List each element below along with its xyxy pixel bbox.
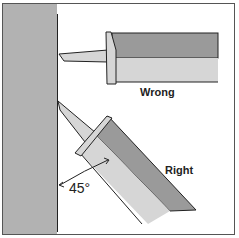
right-caulk-gun [58, 101, 196, 224]
wrong-barrel-bottom [112, 58, 218, 82]
wrong-caulk-gun [59, 32, 218, 84]
wall [3, 4, 57, 234]
label-wrong: Wrong [140, 86, 175, 98]
wrong-barrel-top [112, 33, 218, 58]
label-angle: 45° [69, 180, 90, 196]
wrong-nozzle [59, 50, 108, 62]
diagram-graphic [0, 0, 239, 238]
label-right: Right [165, 164, 193, 176]
